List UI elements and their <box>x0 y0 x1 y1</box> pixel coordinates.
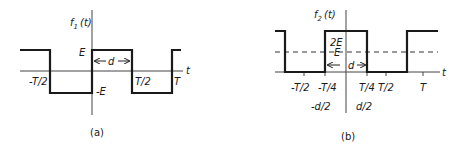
label-d-b: d <box>348 60 355 71</box>
label-E-b: E <box>334 47 341 58</box>
y-label-b: f2(t) <box>314 9 336 23</box>
label-T-a: T <box>174 76 181 87</box>
label-half-d-b: d/2 <box>356 101 372 112</box>
caption-b: (b) <box>341 131 355 142</box>
label-T-b: T <box>420 82 427 93</box>
label-neg-quarter-T-b: -T/4 <box>318 82 337 93</box>
x-label-a: t <box>186 65 191 76</box>
label-half-T-b: T/2 <box>378 82 394 93</box>
label-quarter-T-b: T/4 <box>359 82 375 93</box>
diagram-canvas: f1(t) t E -E d -T/2 T/2 T (a) <box>0 0 463 152</box>
diagram-a: f1(t) t E -E d -T/2 T/2 T (a) <box>20 10 191 138</box>
label-neg-half-T-a: -T/2 <box>29 76 48 87</box>
label-half-T-a: T/2 <box>135 76 151 87</box>
label-neg-E-a: -E <box>96 86 107 97</box>
label-neg-half-d-b: -d/2 <box>311 101 331 112</box>
label-neg-half-T-b: -T/2 <box>291 82 310 93</box>
x-label-b: t <box>442 67 447 78</box>
label-E-a: E <box>79 47 86 58</box>
caption-a: (a) <box>90 127 104 138</box>
diagram-b: f2(t) t 2E E d -T/2 -T/4 T/4 T/2 T -d/2 … <box>275 9 447 142</box>
y-label-a: f1(t) <box>70 17 92 31</box>
label-d-a: d <box>108 56 115 67</box>
